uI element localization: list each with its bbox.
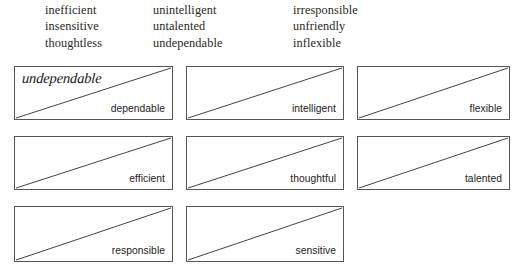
word-bank-word: irresponsible xyxy=(293,2,358,18)
word-bank: inefficient insensitive thoughtless unin… xyxy=(0,0,524,58)
prompt-word: responsible xyxy=(112,245,165,257)
word-bank-word: undependable xyxy=(153,35,223,51)
prompt-word: dependable xyxy=(111,103,165,115)
answer-box-6[interactable]: talented xyxy=(357,136,510,190)
worksheet-page: inefficient insensitive thoughtless unin… xyxy=(0,0,524,277)
answer-box-7[interactable]: responsible xyxy=(14,206,173,262)
answer-box-2[interactable]: intelligent xyxy=(186,66,344,120)
word-bank-word: untalented xyxy=(153,18,223,34)
prompt-word: sensitive xyxy=(295,245,336,257)
prompt-word: flexible xyxy=(470,103,502,115)
word-bank-column-3: irresponsible unfriendly inflexible xyxy=(293,2,358,51)
word-bank-word: unintelligent xyxy=(153,2,223,18)
word-bank-word: thoughtless xyxy=(45,35,102,51)
word-bank-word: insensitive xyxy=(45,18,102,34)
word-bank-word: inefficient xyxy=(45,2,102,18)
word-bank-word: inflexible xyxy=(293,35,358,51)
prompt-word: talented xyxy=(465,173,502,185)
word-bank-word: unfriendly xyxy=(293,18,358,34)
prompt-word: thoughtful xyxy=(290,173,336,185)
word-bank-column-2: unintelligent untalented undependable xyxy=(153,2,223,51)
answer-box-8[interactable]: sensitive xyxy=(186,206,344,262)
answer-box-3[interactable]: flexible xyxy=(357,66,510,120)
prompt-word: intelligent xyxy=(292,103,336,115)
word-bank-column-1: inefficient insensitive thoughtless xyxy=(45,2,102,51)
handwritten-answer[interactable]: undependable xyxy=(22,70,102,87)
answer-box-1[interactable]: undependable dependable xyxy=(14,66,173,120)
answer-box-5[interactable]: thoughtful xyxy=(186,136,344,190)
answer-box-4[interactable]: efficient xyxy=(14,136,173,190)
prompt-word: efficient xyxy=(129,173,165,185)
